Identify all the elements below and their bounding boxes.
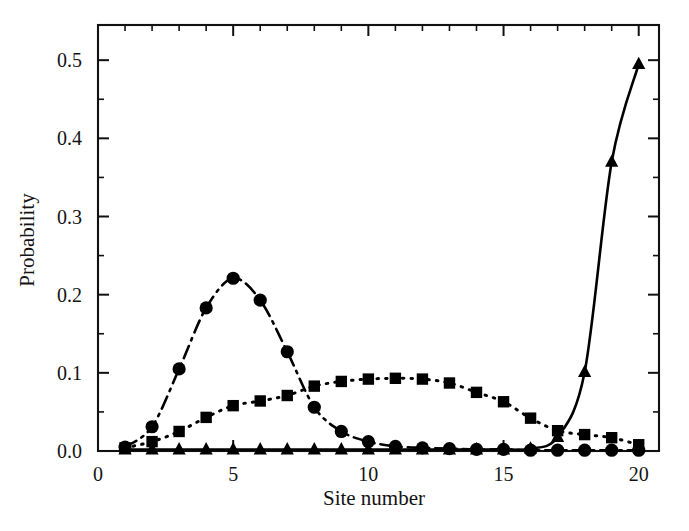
data-point-circle	[605, 444, 618, 457]
data-point-square	[309, 380, 320, 391]
x-tick-label: 0	[93, 463, 103, 485]
data-point-square	[498, 396, 509, 407]
data-point-square	[200, 412, 211, 423]
x-tick-label: 5	[228, 463, 238, 485]
y-tick-label: 0.0	[57, 440, 82, 462]
data-point-square	[173, 426, 184, 437]
plot-frame	[98, 25, 659, 451]
data-point-circle	[173, 362, 186, 375]
x-tick-label: 15	[494, 463, 514, 485]
y-tick-label: 0.2	[57, 284, 82, 306]
data-series-layer	[118, 57, 645, 457]
data-point-circle	[308, 401, 321, 414]
data-point-circle	[551, 444, 564, 457]
data-point-circle	[227, 272, 240, 285]
y-tick-label: 0.4	[57, 127, 82, 149]
data-point-circle	[335, 425, 348, 438]
data-point-square	[444, 377, 455, 388]
x-tick-label: 20	[629, 463, 649, 485]
data-point-square	[579, 429, 590, 440]
data-point-square	[390, 373, 401, 384]
series-triangle-series	[118, 57, 645, 455]
data-point-square	[336, 376, 347, 387]
y-tick-label: 0.1	[57, 362, 82, 384]
data-point-circle	[281, 345, 294, 358]
data-point-circle	[254, 294, 267, 307]
data-point-square	[606, 432, 617, 443]
series-square-series	[119, 373, 644, 454]
data-point-circle	[578, 444, 591, 457]
data-point-square	[525, 412, 536, 423]
series-line-triangle-series	[125, 64, 639, 450]
x-tick-label: 10	[358, 463, 378, 485]
data-point-square	[417, 373, 428, 384]
y-axis-title: Probability	[15, 193, 39, 287]
data-point-triangle	[578, 365, 591, 377]
data-point-square	[282, 390, 293, 401]
y-tick-label: 0.3	[57, 206, 82, 228]
data-point-circle	[145, 420, 158, 433]
probability-vs-site-number-chart: 05101520 0.00.10.20.30.40.5 Site number …	[0, 0, 689, 531]
y-axis-tick-labels: 0.00.10.20.30.40.5	[57, 49, 82, 462]
data-point-square	[633, 439, 644, 450]
data-point-triangle	[632, 57, 645, 69]
x-axis-ticks	[98, 25, 639, 451]
x-axis-title: Site number	[323, 486, 425, 510]
data-point-square	[363, 373, 374, 384]
x-axis-tick-labels: 05101520	[93, 463, 649, 485]
y-axis-ticks	[98, 60, 659, 451]
data-point-square	[471, 387, 482, 398]
y-tick-label: 0.5	[57, 49, 82, 71]
data-point-square	[255, 395, 266, 406]
series-circle-series	[118, 272, 645, 457]
data-point-square	[227, 400, 238, 411]
data-point-triangle	[605, 154, 618, 166]
data-point-circle	[200, 301, 213, 314]
figure-container: 05101520 0.00.10.20.30.40.5 Site number …	[0, 0, 689, 531]
